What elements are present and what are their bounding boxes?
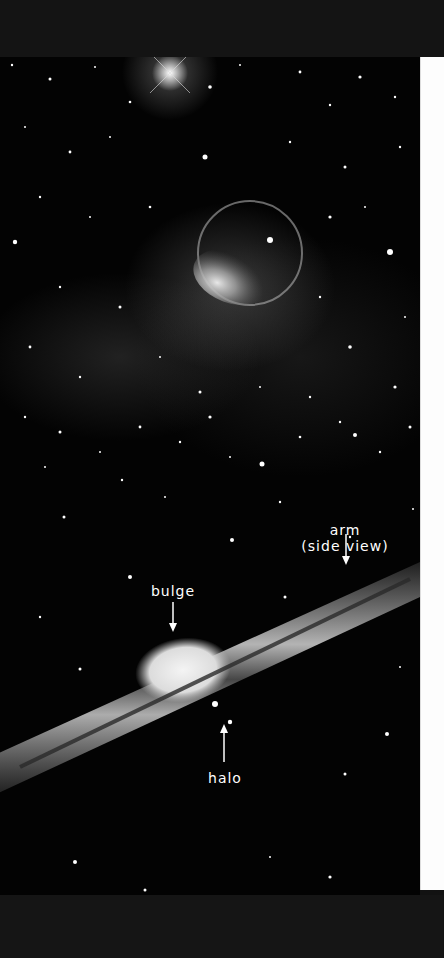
scan-border-bottom [0, 895, 443, 958]
bright-star-icon [150, 57, 190, 93]
label-arm-line1: arm [290, 522, 400, 538]
astronomy-figure: arm (side view) bulge halo [0, 57, 420, 895]
bubble-nebula [186, 201, 302, 315]
label-arm-line2: (side view) [290, 538, 400, 554]
page-edge [420, 57, 444, 890]
edge-on-galaxy [0, 562, 420, 797]
scan-border-top [0, 0, 443, 57]
label-bulge: bulge [148, 583, 198, 599]
label-arm: arm (side view) [290, 522, 400, 554]
label-halo: halo [202, 770, 248, 786]
